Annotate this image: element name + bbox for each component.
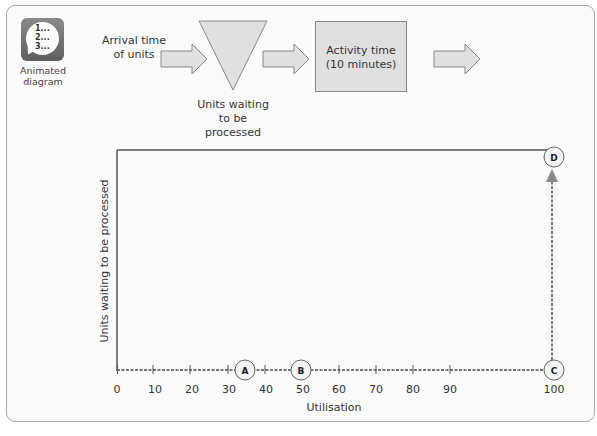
- x-tick: 60: [332, 383, 346, 396]
- x-tick: 40: [259, 383, 273, 396]
- point-c[interactable]: C: [544, 360, 565, 381]
- x-tick: 80: [406, 383, 420, 396]
- x-tick: 10: [148, 383, 162, 396]
- point-d[interactable]: D: [544, 147, 565, 168]
- x-tick: 30: [222, 383, 236, 396]
- x-tick: 0: [114, 383, 121, 396]
- point-b[interactable]: B: [291, 360, 312, 381]
- x-tick: 20: [185, 383, 199, 396]
- point-a[interactable]: A: [235, 360, 256, 381]
- x-tick: 50: [296, 383, 310, 396]
- x-tick: 70: [369, 383, 383, 396]
- x-tick: 90: [443, 383, 457, 396]
- x-tick: 100: [544, 383, 565, 396]
- x-axis-label: Utilisation: [306, 401, 361, 414]
